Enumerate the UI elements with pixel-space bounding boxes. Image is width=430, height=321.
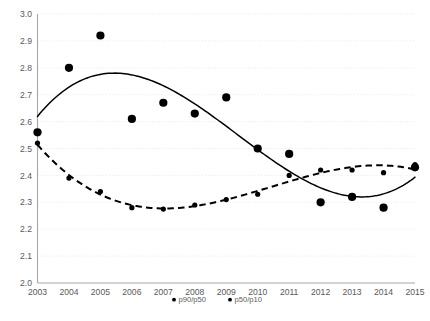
y-axis-tick-label: 2.9: [20, 36, 32, 46]
data-point-p50-p10: [318, 167, 323, 172]
x-axis-tick-label: 2015: [405, 287, 424, 297]
x-axis-tick-label: 2005: [91, 287, 110, 297]
legend-label: p90/p50: [179, 295, 206, 304]
data-point-p50-p10: [255, 192, 260, 197]
chart-background: [0, 0, 430, 321]
chart-canvas: 2.02.12.22.32.42.52.62.72.82.93.0 200320…: [0, 0, 430, 321]
data-point-p90-p50: [128, 115, 136, 123]
x-axis-tick-label: 2011: [280, 287, 299, 297]
data-point-p90-p50: [317, 198, 325, 206]
y-axis-tick-label: 2.3: [20, 197, 32, 207]
y-axis-tick-label: 2.4: [20, 171, 32, 181]
data-point-p90-p50: [379, 204, 387, 212]
y-axis-tick-label: 2.7: [20, 90, 32, 100]
x-axis-tick-label: 2012: [311, 287, 330, 297]
x-axis-tick-label: 2009: [217, 287, 236, 297]
data-point-p50-p10: [35, 141, 40, 146]
y-axis-tick-label: 2.6: [20, 117, 32, 127]
data-point-p50-p10: [381, 170, 386, 175]
data-point-p90-p50: [348, 193, 356, 201]
data-point-p50-p10: [412, 162, 417, 167]
y-axis-tick-label: 2.1: [20, 251, 32, 261]
data-point-p90-p50: [285, 150, 293, 158]
x-axis-tick-label: 2014: [374, 287, 393, 297]
data-point-p90-p50: [222, 93, 230, 101]
data-point-p90-p50: [65, 64, 73, 72]
x-axis-tick-label: 2007: [154, 287, 173, 297]
x-axis-tick-label: 2003: [28, 287, 47, 297]
legend-marker-icon: [228, 298, 232, 302]
data-point-p50-p10: [287, 173, 292, 178]
data-point-p50-p10: [192, 202, 197, 207]
x-axis-tick-label: 2006: [122, 287, 141, 297]
x-axis-tick-label: 2013: [343, 287, 362, 297]
data-point-p90-p50: [159, 99, 167, 107]
x-axis-tick-label: 2004: [59, 287, 78, 297]
data-point-p90-p50: [96, 31, 104, 39]
data-point-p90-p50: [254, 144, 262, 152]
data-point-p50-p10: [224, 197, 229, 202]
data-point-p50-p10: [349, 167, 354, 172]
y-axis-tick-label: 2.2: [20, 224, 32, 234]
legend-label: p50/p10: [235, 295, 262, 304]
data-point-p50-p10: [129, 205, 134, 210]
data-point-p50-p10: [66, 175, 71, 180]
data-point-p50-p10: [161, 206, 166, 211]
data-point-p90-p50: [33, 128, 41, 136]
chart-container: 2.02.12.22.32.42.52.62.72.82.93.0 200320…: [0, 0, 430, 321]
legend-marker-icon: [172, 298, 176, 302]
y-axis-tick-label: 2.5: [20, 144, 32, 154]
y-axis-tick-label: 2.8: [20, 63, 32, 73]
y-axis-tick-label: 3.0: [20, 9, 32, 19]
data-point-p50-p10: [98, 189, 103, 194]
data-point-p90-p50: [191, 109, 199, 117]
